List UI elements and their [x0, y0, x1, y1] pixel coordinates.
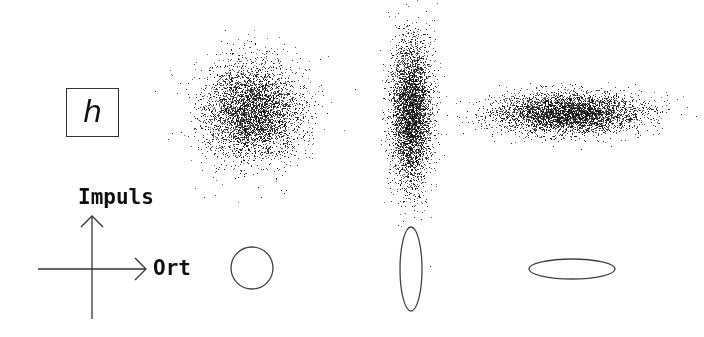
- horizontal-ellipse: [529, 259, 615, 279]
- planck-constant-box: h: [66, 88, 119, 137]
- circle-ellipse: [231, 247, 273, 289]
- planck-constant-symbol: h: [83, 97, 102, 127]
- diagram-shapes: [0, 0, 704, 337]
- uncertainty-ellipses: [231, 227, 615, 311]
- vertical-ellipse: [400, 227, 422, 311]
- position-axis-label: Ort: [153, 258, 191, 279]
- phase-space-diagram: h Impuls Ort: [0, 0, 704, 337]
- momentum-axis-label: Impuls: [78, 187, 154, 208]
- coordinate-axes: [38, 216, 146, 319]
